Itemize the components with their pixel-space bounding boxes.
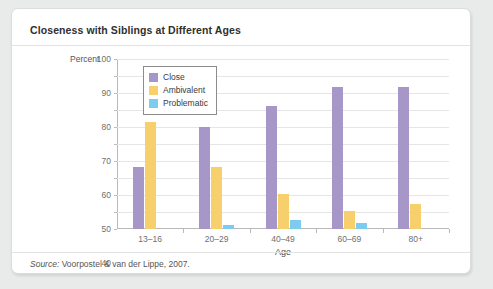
bar-close [199, 127, 210, 229]
y-axis-tick-mark [114, 212, 117, 213]
y-axis-tick-mark [114, 178, 117, 179]
x-axis-tick-mark [183, 229, 184, 233]
legend-label: Ambivalent [163, 85, 205, 95]
figure-card: Closeness with Siblings at Different Age… [11, 8, 471, 274]
x-axis-tick-label: 80+ [409, 234, 423, 244]
bar-ambivalent [211, 167, 222, 229]
y-axis-tick-mark [114, 110, 117, 111]
y-axis-tick-mark [114, 76, 117, 77]
bar-problematic [356, 223, 367, 229]
chart-legend: CloseAmbivalentProblematic [143, 66, 217, 115]
bar-close [332, 87, 343, 229]
bar-ambivalent [410, 204, 421, 230]
x-axis-tick-mark [383, 229, 384, 233]
x-axis-tick-label: 40–49 [271, 234, 295, 244]
y-axis-tick-mark [114, 229, 117, 230]
source-note: Source: Voorpostel & van der Lippe, 2007… [30, 259, 190, 269]
y-axis-tick-mark [114, 161, 117, 162]
gridline: 100 [117, 59, 449, 60]
bar-problematic [290, 220, 301, 229]
source-label: Source: [30, 259, 59, 269]
bar-close [398, 87, 409, 229]
legend-item-problematic: Problematic [149, 97, 208, 109]
x-axis-tick-label: 60–69 [338, 234, 362, 244]
y-axis-tick-label: 100 [97, 54, 111, 64]
y-axis-title: Percent [70, 54, 99, 64]
legend-swatch-icon [149, 86, 158, 95]
legend-item-close: Close [149, 71, 208, 83]
y-axis-tick-label: 50 [102, 224, 111, 234]
legend-swatch-icon [149, 99, 158, 108]
y-axis-tick-label: 90 [102, 88, 111, 98]
page-title: Closeness with Siblings at Different Age… [30, 24, 241, 36]
legend-item-ambivalent: Ambivalent [149, 84, 208, 96]
x-axis-tick-mark [449, 229, 450, 233]
x-axis-tick-label: 20–29 [205, 234, 229, 244]
bar-problematic [223, 225, 234, 229]
legend-label: Close [163, 72, 185, 82]
x-axis-tick-label: 13–16 [138, 234, 162, 244]
legend-swatch-icon [149, 73, 158, 82]
y-axis-tick-mark [114, 93, 117, 94]
y-axis-tick-mark [114, 144, 117, 145]
source-divider [12, 252, 471, 253]
y-axis-tick-mark [114, 127, 117, 128]
bar-close [133, 167, 144, 229]
bar-close [266, 106, 277, 229]
y-axis-tick-mark [114, 59, 117, 60]
gridline: 0 [117, 229, 449, 230]
x-axis-tick-mark [316, 229, 317, 233]
legend-label: Problematic [163, 98, 208, 108]
source-text: Voorpostel & van der Lippe, 2007. [59, 259, 189, 269]
y-axis-tick-label: 70 [102, 156, 111, 166]
y-axis-tick-label: 80 [102, 122, 111, 132]
y-axis-tick-label: 60 [102, 190, 111, 200]
x-axis-tick-mark [250, 229, 251, 233]
bar-ambivalent [344, 211, 355, 229]
title-divider [12, 45, 471, 46]
y-axis-tick-mark [114, 195, 117, 196]
bar-ambivalent [278, 194, 289, 229]
bar-ambivalent [145, 122, 156, 229]
